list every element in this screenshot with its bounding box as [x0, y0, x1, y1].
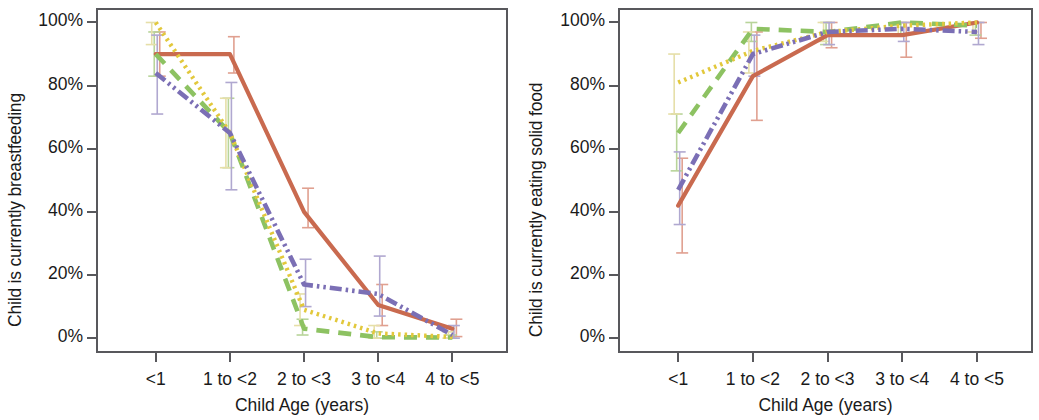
y-axis-label-solid-food: Child is currently eating solid food — [523, 0, 549, 420]
y-tick-label: 20% — [570, 263, 605, 284]
y-tick-mark — [609, 148, 618, 150]
y-tick-label: 100% — [560, 10, 605, 31]
x-tick-mark — [377, 353, 379, 362]
series-lines-breastfeeding — [96, 8, 508, 353]
series-line-orange — [156, 54, 453, 329]
x-tick-label: 4 to <5 — [950, 369, 1004, 390]
x-tick-mark — [901, 353, 903, 362]
plot-area-solid-food: 0%20%40%60%80%100% <11 to <22 to <33 to … — [618, 8, 1033, 353]
plot-area-breastfeeding: 0%20%40%60%80%100% <11 to <22 to <33 to … — [96, 8, 508, 353]
y-tick-label: 40% — [48, 200, 83, 221]
error-bar — [671, 114, 683, 171]
y-tick-mark — [87, 85, 96, 87]
x-tick-label: 3 to <4 — [875, 369, 929, 390]
series-line-purple — [678, 29, 977, 190]
x-axis-label-solid-food: Child Age (years) — [618, 395, 1033, 416]
y-tick-mark — [609, 274, 618, 276]
series-lines-solid-food — [618, 8, 1033, 353]
error-bar — [146, 22, 158, 44]
y-tick-mark — [87, 211, 96, 213]
series-line-orange — [678, 22, 977, 205]
x-tick-mark — [303, 353, 305, 362]
y-tick-label: 100% — [38, 10, 83, 31]
x-tick-label: 4 to <5 — [425, 369, 479, 390]
y-tick-label: 20% — [48, 263, 83, 284]
x-tick-label: <1 — [146, 369, 166, 390]
series-line-green — [678, 22, 977, 132]
x-tick-mark — [677, 353, 679, 362]
panel-breastfeeding: Child is currently breastfeeding 0%20%40… — [0, 0, 519, 420]
y-tick-mark — [87, 274, 96, 276]
y-tick-mark — [609, 85, 618, 87]
x-tick-label: <1 — [668, 369, 688, 390]
x-tick-label: 2 to <3 — [801, 369, 855, 390]
error-bar — [668, 54, 680, 114]
y-tick-mark — [87, 148, 96, 150]
series-line-yellow — [156, 22, 453, 336]
y-axis-label-breastfeeding: Child is currently breastfeeding — [2, 0, 28, 420]
x-tick-label: 3 to <4 — [351, 369, 405, 390]
y-tick-label: 60% — [48, 137, 83, 158]
y-tick-mark — [609, 211, 618, 213]
y-tick-label: 0% — [58, 326, 83, 347]
series-line-green — [156, 54, 453, 337]
x-tick-mark — [752, 353, 754, 362]
x-tick-mark — [155, 353, 157, 362]
y-tick-mark — [609, 21, 618, 23]
y-tick-label: 40% — [570, 200, 605, 221]
x-tick-label: 2 to <3 — [277, 369, 331, 390]
y-tick-label: 80% — [48, 74, 83, 95]
y-tick-mark — [609, 337, 618, 339]
x-axis-label-breastfeeding: Child Age (years) — [96, 395, 508, 416]
figure-two-panel-line-charts: Child is currently breastfeeding 0%20%40… — [0, 0, 1039, 420]
y-tick-label: 0% — [580, 326, 605, 347]
panel-solid-food: Child is currently eating solid food 0%2… — [519, 0, 1039, 420]
y-tick-mark — [87, 21, 96, 23]
x-tick-mark — [229, 353, 231, 362]
series-line-purple — [156, 73, 453, 335]
y-tick-mark — [87, 337, 96, 339]
x-tick-mark — [827, 353, 829, 362]
y-tick-label: 60% — [570, 137, 605, 158]
y-tick-label: 80% — [570, 74, 605, 95]
x-tick-label: 1 to <2 — [203, 369, 257, 390]
x-tick-mark — [451, 353, 453, 362]
x-tick-mark — [976, 353, 978, 362]
x-tick-label: 1 to <2 — [726, 369, 780, 390]
